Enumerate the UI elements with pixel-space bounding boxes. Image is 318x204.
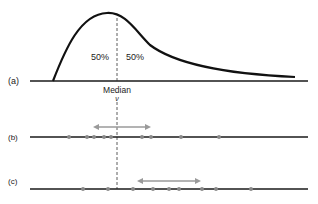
data-point-dot — [249, 187, 253, 191]
data-point-dot — [177, 187, 181, 191]
data-point-dot — [106, 187, 110, 191]
data-point-dot — [167, 187, 171, 191]
left-percent-label: 50% — [91, 52, 109, 62]
panel-b: (b) — [8, 124, 308, 142]
data-point-dot — [179, 135, 183, 139]
panel-b-range-arrow — [93, 124, 151, 130]
arrow-right-head-icon — [145, 124, 151, 130]
data-point-dot — [217, 135, 221, 139]
arrow-right-head-icon — [195, 178, 201, 184]
data-point-dot — [102, 135, 106, 139]
panel-c-range-arrow — [137, 178, 201, 184]
panel-c-label: (c) — [8, 177, 18, 186]
panel-a: (a) 50% 50% Median ν — [8, 13, 308, 102]
data-point-dot — [140, 135, 144, 139]
data-point-dot — [109, 135, 113, 139]
arrow-left-head-icon — [93, 124, 99, 130]
data-point-dot — [85, 135, 89, 139]
data-point-dot — [92, 135, 96, 139]
data-point-dot — [67, 135, 71, 139]
data-point-dot — [81, 187, 85, 191]
median-diagram: (a) 50% 50% Median ν (b) (c) — [0, 0, 318, 204]
arrow-left-head-icon — [137, 178, 143, 184]
panel-c: (c) — [8, 177, 308, 191]
data-point-dot — [151, 187, 155, 191]
data-point-dot — [200, 187, 204, 191]
data-point-dot — [149, 135, 153, 139]
data-point-dot — [131, 187, 135, 191]
data-point-dot — [214, 187, 218, 191]
median-symbol: ν — [115, 95, 119, 102]
right-percent-label: 50% — [126, 52, 144, 62]
panel-a-label: (a) — [8, 76, 19, 86]
distribution-curve — [53, 13, 295, 81]
panel-b-label: (b) — [8, 133, 18, 142]
median-label: Median — [103, 85, 131, 95]
